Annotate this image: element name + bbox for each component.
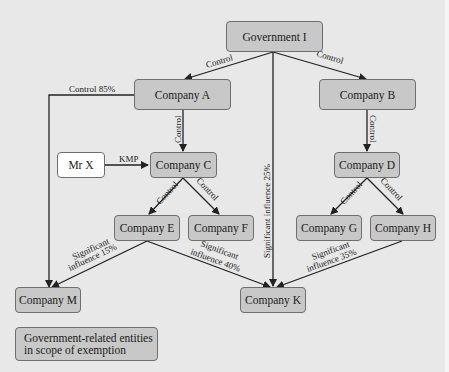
node-label: Company A [155, 89, 210, 101]
node-label: Company B [340, 89, 395, 101]
label-d-h: Control [379, 176, 405, 203]
node-government-i: Government I [226, 21, 323, 52]
label-d-g: Control [338, 179, 364, 206]
node-label: Company H [375, 222, 431, 234]
node-label: Government I [242, 31, 306, 43]
node-company-a: Company A [134, 79, 231, 110]
node-label: Mr X [68, 159, 93, 171]
legend-text: Government-related entities in scope of … [24, 332, 157, 356]
label-c-f: Control [195, 176, 221, 203]
label-gov-a: Control [205, 52, 235, 70]
node-company-g: Company G [296, 215, 362, 241]
node-label: Company K [245, 294, 301, 306]
label-c-e: Control [154, 179, 180, 206]
label-a-m: Control 85% [69, 84, 116, 94]
connector-layer: Control Control Significant influence 25… [0, 0, 449, 372]
node-label: Company E [120, 222, 175, 234]
node-company-b: Company B [319, 79, 416, 110]
label-b-d: Control [368, 115, 378, 143]
node-label: Company M [19, 294, 77, 306]
node-label: Company C [156, 159, 211, 171]
node-company-d: Company D [334, 152, 400, 178]
label-gov-k: Significant influence 25% [262, 164, 272, 258]
legend-box: Government-related entities in scope of … [15, 327, 158, 361]
node-company-c: Company C [150, 152, 217, 178]
node-label: Company G [301, 222, 357, 234]
node-label: Company D [339, 159, 395, 171]
node-company-h: Company H [370, 215, 436, 241]
label-a-c: Control [173, 115, 183, 143]
node-company-m: Company M [15, 287, 81, 313]
label-mrx-c: KMP [119, 154, 139, 164]
node-company-k: Company K [240, 287, 306, 313]
node-company-f: Company F [188, 215, 254, 241]
node-label: Company F [194, 222, 248, 234]
node-company-e: Company E [114, 215, 180, 241]
node-mr-x: Mr X [57, 152, 105, 178]
